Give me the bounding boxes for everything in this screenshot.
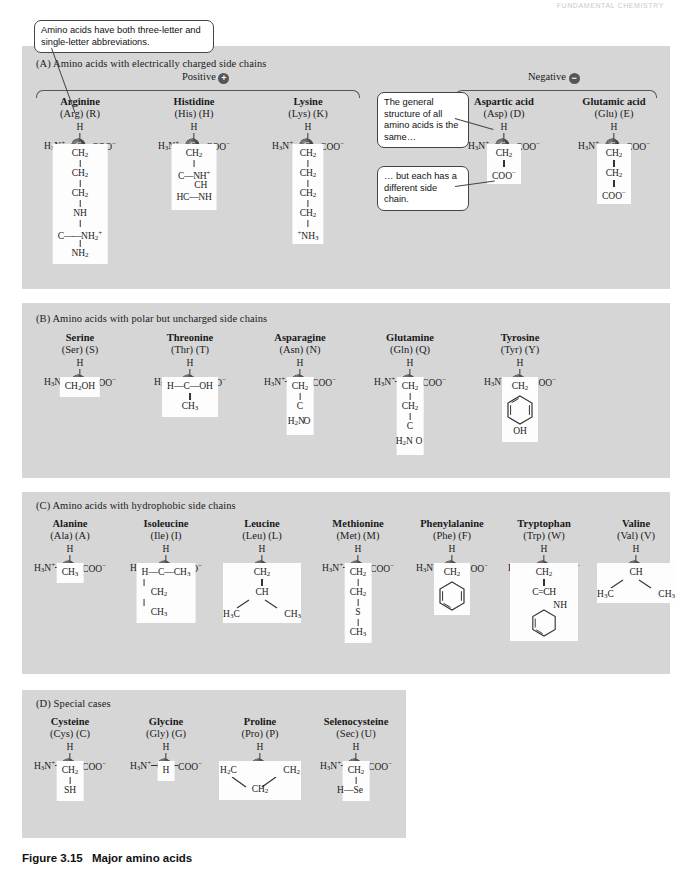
amino-acid-serine: Serine (Ser) (S) H H3N+ C COO− CH2OH — [28, 332, 132, 393]
amino-group: H3N+ — [264, 375, 285, 388]
side-chain-glycine: H — [158, 761, 175, 781]
aa-abbrev: (Val) (V) — [586, 530, 686, 542]
amino-group: H3N+ — [34, 561, 55, 574]
backbone-h: H — [191, 122, 198, 132]
side-chain-histidine: CH2 C—NH+ CH HC—NH — [172, 144, 217, 210]
backbone-h: H — [187, 358, 194, 368]
aa-name: Serine — [28, 332, 132, 344]
backbone-h: H — [305, 122, 312, 132]
aa-abbrev: (His) (H) — [142, 108, 246, 120]
figure-label: Figure 3.15 — [22, 852, 83, 864]
amino-acid-glycine: Glycine (Gly) (G) H H3N+ C COO− H — [118, 716, 214, 777]
backbone-h: H — [257, 742, 264, 752]
positive-label-text: Positive — [182, 71, 216, 82]
backbone-h: H — [355, 544, 362, 554]
backbone-h: H — [297, 358, 304, 368]
aa-name: Lysine — [256, 96, 360, 108]
amino-acid-lysine: Lysine (Lys) (K) H H3N+ C COO− CH2 CH2 C… — [256, 96, 360, 157]
amino-group: H3N+ — [468, 139, 489, 152]
plus-circle-icon: + — [218, 73, 229, 84]
amino-acid-isoleucine: Isoleucine (Ile) (I) H H3N+ C COO− H—C—C… — [118, 518, 214, 579]
backbone-h: H — [67, 742, 74, 752]
aa-name: Methionine — [310, 518, 406, 530]
aa-name: Glutamine — [358, 332, 462, 344]
side-chain-glutamic-acid: CH2 CH2 COO− — [597, 144, 631, 204]
side-chain-serine: CH2OH — [60, 377, 100, 397]
aa-name: Phenylalanine — [400, 518, 504, 530]
aa-abbrev: (Ile) (I) — [118, 530, 214, 542]
section-a-label: (A) Amino acids with electrically charge… — [36, 58, 267, 69]
amino-group: H3N+ — [272, 139, 293, 152]
figure-caption: Figure 3.15 Major amino acids — [22, 852, 192, 864]
side-chain-lysine: CH2 CH2 CH2 CH2 +NH3 — [292, 144, 323, 244]
side-chain-proline: H2C CH2 CH2 — [219, 761, 301, 800]
amino-acid-glutamic-acid: Glutamic acid (Glu) (E) H H3N+ C COO− CH… — [562, 96, 666, 157]
aa-name: Alanine — [22, 518, 118, 530]
backbone-h: H — [259, 544, 266, 554]
carboxyl-group: COO− — [370, 562, 394, 574]
aa-abbrev: (Gln) (Q) — [358, 344, 462, 356]
aa-name: Tryptophan — [492, 518, 596, 530]
aa-abbrev: (Tyr) (Y) — [468, 344, 572, 356]
side-chain-arginine: CH2 CH2 CH2 NH C——NH2+ NH2 — [53, 144, 108, 264]
amino-acid-glutamine: Glutamine (Gln) (Q) H H3N+ C COO− CH2 CH… — [358, 332, 462, 393]
side-chain-methionine: CH2 CH2 S CH3 — [345, 563, 372, 643]
aa-abbrev: (Thr) (T) — [138, 344, 242, 356]
aa-name: Proline — [208, 716, 312, 728]
amino-acid-tyrosine: Tyrosine (Tyr) (Y) H H3N+ C COO− CH2 — [468, 332, 572, 393]
amino-acid-leucine: Leucine (Leu) (L) H H3N+ C COO− CH2 CH H… — [214, 518, 310, 579]
aa-name: Valine — [586, 518, 686, 530]
backbone-h: H — [353, 742, 360, 752]
backbone-h: H — [407, 358, 414, 368]
aa-abbrev: (Gly) (G) — [118, 728, 214, 740]
amino-group: H3N+ — [34, 759, 55, 772]
side-chain-alanine: CH3 — [57, 563, 84, 583]
side-chain-threonine: H—C—OH CH3 — [162, 377, 218, 417]
aa-name: Selenocysteine — [304, 716, 408, 728]
backbone-h: H — [449, 544, 456, 554]
aa-name: Glutamic acid — [562, 96, 666, 108]
amino-acid-selenocysteine: Selenocysteine (Sec) (U) H H3N+ C COO− C… — [304, 716, 408, 777]
side-chain-callout: … but each has a different side chain. — [377, 166, 469, 211]
side-chain-phenylalanine: CH2 — [434, 563, 470, 615]
aa-name: Leucine — [214, 518, 310, 530]
minus-circle-icon: − — [569, 73, 580, 84]
carboxyl-group: COO− — [422, 376, 446, 388]
amino-acid-threonine: Threonine (Thr) (T) H H3N+ C COO− H—C—OH… — [138, 332, 242, 393]
carboxyl-group: COO− — [320, 140, 344, 152]
amino-acid-alanine: Alanine (Ala) (A) H H3N+ C COO− CH3 — [22, 518, 118, 579]
amino-group: H3N+ — [374, 375, 395, 388]
aa-name: Isoleucine — [118, 518, 214, 530]
aa-abbrev: (Ala) (A) — [22, 530, 118, 542]
backbone-h: H — [67, 544, 74, 554]
side-chain-leucine: CH2 CH H3C CH3 — [223, 563, 301, 623]
positive-charge-label: Positive + — [182, 71, 229, 84]
amino-acid-arginine: Arginine (Arg) (R) H H3N+ C COO− CH2 CH2… — [28, 96, 132, 157]
figure-title: Major amino acids — [86, 852, 192, 864]
aa-name: Arginine — [28, 96, 132, 108]
abbrev-callout: Amino acids have both three-letter and s… — [34, 20, 214, 53]
figure-page: FUNDAMENTAL CHEMISTRY (A) Amino acids wi… — [0, 0, 692, 878]
aa-name: Tyrosine — [468, 332, 572, 344]
amino-group: H3N+ — [320, 759, 341, 772]
running-head: FUNDAMENTAL CHEMISTRY — [557, 2, 664, 9]
aa-abbrev: (Lys) (K) — [256, 108, 360, 120]
aa-abbrev: (Pro) (P) — [208, 728, 312, 740]
aa-name: Histidine — [142, 96, 246, 108]
amino-acid-histidine: Histidine (His) (H) H H3N+ C COO− CH2 C—… — [142, 96, 246, 157]
side-chain-cysteine: CH2 SH — [57, 761, 84, 801]
aa-abbrev: (Trp) (W) — [492, 530, 596, 542]
amino-acid-tryptophan: Tryptophan (Trp) (W) H H3N+ C COO− CH2 C… — [492, 518, 596, 579]
carboxyl-group: COO− — [178, 760, 202, 772]
backbone-h: H — [163, 544, 170, 554]
side-chain-glutamine: CH2 CH2 C H2N O — [397, 377, 424, 455]
section-b-label: (B) Amino acids with polar but uncharged… — [36, 313, 267, 324]
carboxyl-group: COO− — [368, 760, 392, 772]
backbone-h: H — [541, 544, 548, 554]
backbone-h: H — [501, 122, 508, 132]
side-chain-tyrosine: CH2 OH — [502, 377, 538, 442]
carboxyl-group: COO− — [312, 376, 336, 388]
side-chain-aspartic-acid: CH2 COO− — [487, 144, 521, 184]
aa-abbrev: (Met) (M) — [310, 530, 406, 542]
aa-abbrev: (Asn) (N) — [248, 344, 352, 356]
